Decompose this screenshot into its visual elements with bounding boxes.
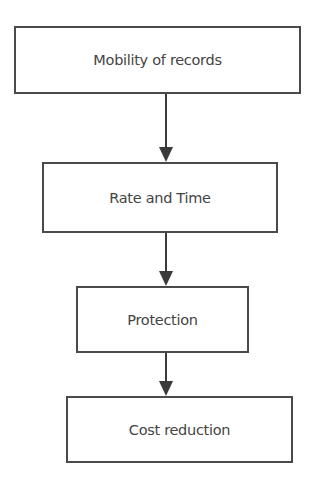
arrow-rate-to-protection — [159, 232, 173, 286]
arrow-mobility-to-rate — [159, 93, 173, 162]
node-rate-and-time: Rate and Time — [42, 162, 278, 233]
node-label: Protection — [127, 312, 197, 328]
node-label: Mobility of records — [93, 52, 221, 68]
node-protection: Protection — [76, 286, 249, 353]
node-mobility-of-records: Mobility of records — [14, 26, 301, 94]
flowchart-diagram: Mobility of records Rate and Time Protec… — [0, 0, 320, 487]
node-label: Rate and Time — [109, 190, 210, 206]
node-cost-reduction: Cost reduction — [66, 396, 293, 463]
node-label: Cost reduction — [129, 422, 230, 438]
arrow-protection-to-cost — [159, 352, 173, 396]
